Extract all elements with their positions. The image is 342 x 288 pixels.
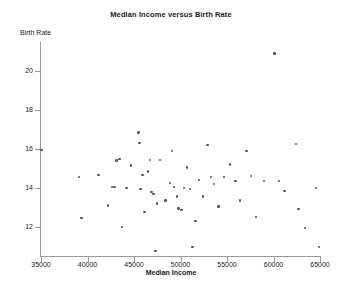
- data-point: [130, 164, 132, 166]
- data-point: [147, 170, 149, 172]
- data-point: [273, 52, 275, 54]
- data-point: [229, 163, 231, 165]
- scatter-plot-figure: Median Income versus Birth Rate Birth Ra…: [0, 0, 342, 288]
- data-point: [154, 250, 156, 252]
- y-axis-label: Birth Rate: [20, 29, 51, 36]
- data-point: [186, 166, 188, 168]
- data-point: [118, 158, 120, 160]
- y-tick-label: 14: [0, 184, 33, 192]
- page-title: Median Income versus Birth Rate: [0, 10, 342, 19]
- data-point: [194, 220, 196, 222]
- data-point: [152, 193, 154, 195]
- data-point: [107, 204, 109, 206]
- y-tick-label: 12: [0, 223, 33, 231]
- y-tick-label: 18: [0, 106, 33, 114]
- y-tick-label-text: 18: [3, 106, 33, 113]
- data-point: [217, 205, 219, 207]
- data-point: [113, 186, 115, 188]
- data-point: [189, 188, 191, 190]
- data-point: [202, 195, 204, 197]
- plot-area: [41, 42, 320, 256]
- data-point: [239, 199, 241, 201]
- data-point: [149, 159, 151, 161]
- data-point: [164, 199, 166, 201]
- y-tick-label-text: 14: [3, 184, 33, 191]
- data-point: [176, 195, 178, 197]
- y-tick-label-text: 16: [3, 145, 33, 152]
- data-point: [115, 159, 117, 161]
- y-tick-label: 20: [0, 67, 33, 75]
- data-point: [206, 144, 208, 146]
- data-point: [283, 190, 285, 192]
- data-point: [234, 180, 236, 182]
- y-tick-label: 16: [0, 145, 33, 153]
- data-point: [80, 217, 82, 219]
- data-point: [245, 150, 247, 152]
- data-point: [40, 149, 42, 151]
- y-tick-label-text: 20: [3, 67, 33, 74]
- data-point: [125, 187, 127, 189]
- y-tick-label-text: 12: [3, 223, 33, 230]
- data-point: [121, 226, 123, 228]
- data-point: [137, 131, 139, 133]
- x-axis-label: Median Income: [0, 269, 342, 276]
- data-point: [139, 188, 141, 190]
